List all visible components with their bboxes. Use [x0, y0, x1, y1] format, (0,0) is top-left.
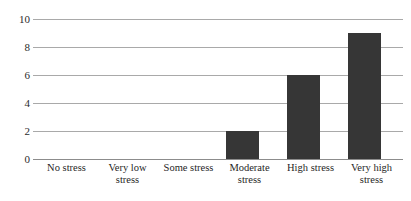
bar-very-high-stress — [348, 33, 381, 159]
bars-layer — [33, 19, 403, 159]
y-axis-tick-label: 2 — [4, 126, 30, 137]
y-axis-tick-label: 8 — [4, 42, 30, 53]
bar-chart: 10 8 6 4 2 0 No stress Very low stress S… — [0, 0, 411, 201]
y-axis-tick-label: 6 — [4, 70, 30, 81]
y-axis-tick-label: 0 — [4, 154, 30, 165]
y-axis-ticks: 10 8 6 4 2 0 — [0, 19, 30, 159]
y-axis-tick-label: 4 — [4, 98, 30, 109]
bar-moderate-stress — [226, 131, 259, 159]
x-axis-label-very-high-stress: Very high stress — [334, 162, 409, 186]
x-axis-baseline — [33, 159, 403, 160]
bar-high-stress — [287, 75, 320, 159]
x-axis-labels: No stress Very low stress Some stress Mo… — [33, 162, 403, 200]
y-axis-tick-label: 10 — [4, 14, 30, 25]
